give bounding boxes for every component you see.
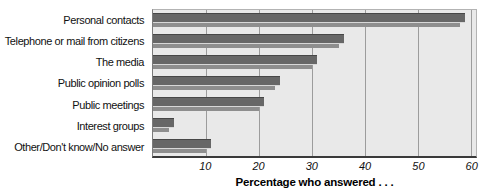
- plot-area: [152, 9, 477, 158]
- bar-row: [153, 31, 476, 52]
- category-label: Personal contacts: [0, 9, 147, 30]
- bar-shadow: [153, 149, 206, 153]
- bar-shadow: [153, 128, 169, 132]
- bar: [153, 97, 264, 107]
- category-axis: Personal contacts Telephone or mail from…: [0, 9, 147, 158]
- category-label: Other/Don't know/No answer: [0, 137, 147, 158]
- bar-row: [153, 114, 476, 135]
- x-tick-label: 20: [252, 160, 264, 172]
- bar: [153, 34, 344, 44]
- category-label: Public meetings: [0, 94, 147, 115]
- x-tick-label: 10: [199, 160, 211, 172]
- bar: [153, 139, 211, 149]
- bar-shadow: [153, 86, 275, 90]
- bar-row: [153, 135, 476, 156]
- bar: [153, 118, 174, 128]
- category-label: Public opinion polls: [0, 73, 147, 94]
- bar-row: [153, 10, 476, 31]
- category-label: Telephone or mail from citizens: [0, 30, 147, 51]
- category-label: Interest groups: [0, 115, 147, 136]
- bar: [153, 76, 280, 86]
- x-tick-label: 40: [359, 160, 371, 172]
- x-tick-label: 60: [466, 160, 478, 172]
- horizontal-bar-chart: Personal contacts Telephone or mail from…: [0, 0, 490, 195]
- x-axis-ticks: 10 20 30 40 50 60: [152, 160, 477, 174]
- x-tick-label: 50: [412, 160, 424, 172]
- bars-container: [153, 10, 476, 156]
- bar-shadow: [153, 23, 460, 27]
- bar-shadow: [153, 65, 312, 69]
- category-label: The media: [0, 52, 147, 73]
- bar: [153, 55, 317, 65]
- bar-row: [153, 52, 476, 73]
- bar: [153, 13, 465, 23]
- bar-shadow: [153, 44, 339, 48]
- x-axis-title: Percentage who answered . . .: [152, 176, 477, 188]
- x-tick-label: 30: [306, 160, 318, 172]
- bar-row: [153, 93, 476, 114]
- bar-shadow: [153, 107, 259, 111]
- bar-row: [153, 73, 476, 94]
